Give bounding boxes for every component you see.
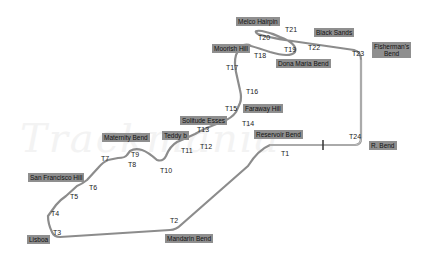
corner-label-teddy-b: Teddy b: [162, 131, 189, 140]
corner-label-lisboa: Lisboa: [27, 235, 50, 244]
turn-label-t18: T18: [254, 52, 266, 59]
turn-label-t15: T15: [225, 105, 237, 112]
turn-label-t11: T11: [181, 147, 193, 154]
corner-label-faraway-hill: Faraway Hill: [243, 104, 283, 113]
turn-label-t20: T20: [258, 34, 270, 41]
turn-label-t24: T24: [349, 133, 361, 140]
turn-label-t22: T22: [308, 44, 320, 51]
corner-label-fishermans-bend: Fisherman's Bend: [372, 42, 411, 58]
corner-label-san-francisco-hill: San Francisco Hill: [28, 173, 84, 182]
corner-label-mandarin-bend: Mandarin Bend: [165, 234, 213, 243]
corner-label-reservoir-bend: Reservoir Bend: [254, 130, 303, 139]
turn-label-t17: T17: [226, 64, 238, 71]
corner-label-black-sands: Black Sands: [314, 28, 354, 37]
turn-label-t21: T21: [285, 26, 297, 33]
turn-label-t19: T19: [284, 46, 296, 53]
turn-label-t5: T5: [70, 193, 78, 200]
turn-label-t7: T7: [101, 155, 109, 162]
track-outline: [0, 0, 434, 256]
corner-label-solitude-esses: Solitude Esses: [180, 116, 227, 125]
turn-label-t3: T3: [53, 229, 61, 236]
turn-label-t14: T14: [242, 120, 254, 127]
turn-label-t16: T16: [246, 88, 258, 95]
turn-label-t4: T4: [51, 210, 59, 217]
turn-label-t2: T2: [170, 217, 178, 224]
turn-label-t23: T23: [352, 50, 364, 57]
corner-label-maternity-bend: Maternity Bend: [102, 133, 150, 142]
corner-label-r-bend: R. Bend: [369, 141, 397, 150]
corner-label-dona-maria-bend: Dona Maria Bend: [276, 59, 331, 68]
turn-label-t10: T10: [160, 167, 172, 174]
circuit-map: Trackmania T1 T2 T3 T4 T5 T6 T7 T8 T9 T1…: [0, 0, 434, 256]
turn-label-t6: T6: [89, 184, 97, 191]
turn-label-t12: T12: [200, 143, 212, 150]
corner-label-melco-hairpin: Melco Hairpin: [236, 17, 280, 26]
turn-label-t13: T13: [197, 126, 209, 133]
turn-label-t1: T1: [281, 150, 289, 157]
turn-label-t9: T9: [131, 151, 139, 158]
corner-label-moorish-hill: Moorish Hill: [212, 44, 250, 53]
turn-label-t8: T8: [128, 161, 136, 168]
